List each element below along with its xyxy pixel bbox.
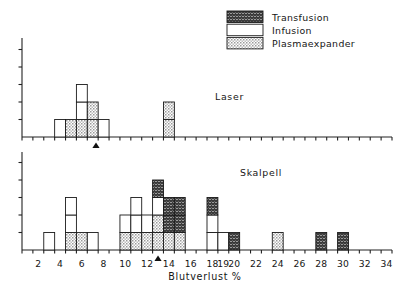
histogram-chart: TransfusionInfusionPlasmaexpander LaserS… <box>0 0 408 292</box>
legend-swatch-infusion <box>227 24 263 36</box>
bar-segment <box>338 233 349 251</box>
bar-segment <box>66 233 77 251</box>
x-tick-label: 4 <box>57 258 63 269</box>
bar-segment <box>55 120 66 138</box>
bar-segment <box>153 215 164 233</box>
legend-label-plasmaexpander: Plasmaexpander <box>272 38 355 49</box>
bar-segment <box>207 233 218 251</box>
bar-segment <box>131 215 142 233</box>
bar-segment <box>76 120 87 138</box>
x-axis-title: Blutverlust % <box>168 271 241 282</box>
bar-segment <box>76 85 87 103</box>
panel-bars-skalpell <box>44 180 349 250</box>
bar-segment <box>120 215 131 233</box>
bar-segment <box>142 215 153 233</box>
mean-marker-skalpell <box>154 256 161 261</box>
bar-segment <box>98 120 109 138</box>
x-tick-label: 8 <box>101 258 107 269</box>
x-tick-label: 30 <box>337 258 349 269</box>
bar-segment <box>163 198 174 216</box>
x-tick-label: 20 <box>228 258 240 269</box>
figure-container: TransfusionInfusionPlasmaexpander LaserS… <box>0 0 408 292</box>
bars-layer <box>44 85 349 261</box>
bar-segment <box>153 198 164 216</box>
bar-segment <box>131 233 142 251</box>
x-tick-label: 26 <box>293 258 305 269</box>
bar-segment <box>87 120 98 138</box>
x-tick-label: 22 <box>250 258 262 269</box>
x-tick-label: 24 <box>272 258 284 269</box>
bar-segment <box>44 233 55 251</box>
panel-label-skalpell: Skalpell <box>240 167 282 178</box>
mean-marker-laser <box>92 143 99 148</box>
x-tick-label: 10 <box>119 258 131 269</box>
bar-segment <box>87 233 98 251</box>
x-tick-label: 14 <box>163 258 175 269</box>
bar-segment <box>76 233 87 251</box>
bar-segment <box>163 102 174 120</box>
legend-label-transfusion: Transfusion <box>271 12 329 23</box>
x-tick-label: 32 <box>359 258 371 269</box>
x-tick-label: 28 <box>315 258 327 269</box>
bar-segment <box>174 215 185 233</box>
bar-segment <box>153 180 164 198</box>
bar-segment <box>66 215 77 233</box>
bar-segment <box>142 233 153 251</box>
x-tick-label: 34 <box>381 258 393 269</box>
panel-label-laser: Laser <box>215 91 244 102</box>
bar-segment <box>174 198 185 216</box>
bar-segment <box>174 233 185 251</box>
x-tick-label: 12 <box>141 258 153 269</box>
bar-segment <box>316 233 327 251</box>
bar-segment <box>207 198 218 216</box>
x-tick-label: 16 <box>185 258 197 269</box>
bar-segment <box>153 233 164 251</box>
legend-swatch-plasmaexpander <box>227 37 263 49</box>
bar-segment <box>163 215 174 233</box>
bar-segment <box>66 120 77 138</box>
bar-segment <box>229 233 240 251</box>
x-tick-label: 6 <box>79 258 85 269</box>
bar-segment <box>131 198 142 216</box>
bar-segment <box>66 198 77 216</box>
panel-bars-laser <box>55 85 175 138</box>
bar-segment <box>207 215 218 233</box>
legend-swatch-transfusion <box>227 11 263 23</box>
bar-segment <box>272 233 283 251</box>
legend: TransfusionInfusionPlasmaexpander <box>227 11 355 49</box>
bar-segment <box>218 233 229 251</box>
bar-segment <box>163 120 174 138</box>
bar-segment <box>120 233 131 251</box>
x-tick-label: 2 <box>35 258 41 269</box>
bar-segment <box>163 233 174 251</box>
legend-label-infusion: Infusion <box>272 25 312 36</box>
bar-segment <box>87 102 98 120</box>
bar-segment <box>76 102 87 120</box>
